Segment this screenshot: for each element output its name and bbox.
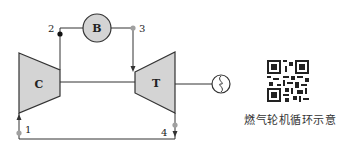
generator — [212, 75, 230, 93]
state-label-2: 2 — [48, 23, 54, 34]
arrow-into-turbine — [131, 66, 136, 72]
state-label-3: 3 — [139, 23, 145, 34]
turbine: T — [135, 52, 175, 113]
node-2 — [57, 31, 62, 36]
compressor: C — [19, 53, 60, 113]
state-label-1: 1 — [25, 124, 31, 135]
pipe-2-to-burner — [60, 28, 83, 70]
node-4 — [172, 122, 177, 127]
diagram-caption: 燃气轮机循环示意 — [240, 111, 340, 127]
burner: B — [83, 14, 111, 42]
state-label-4: 4 — [161, 127, 167, 138]
pipe-4-to-1 — [19, 113, 175, 139]
arrow-into-compressor — [17, 114, 22, 120]
node-1 — [16, 130, 21, 135]
pipe-burner-to-3 — [111, 28, 133, 68]
node-3 — [130, 25, 135, 30]
burner-label: B — [92, 22, 101, 35]
qr-code — [267, 60, 309, 102]
arrow-out-turbine — [173, 131, 178, 137]
turbine-label: T — [152, 77, 161, 90]
compressor-label: C — [35, 78, 44, 91]
